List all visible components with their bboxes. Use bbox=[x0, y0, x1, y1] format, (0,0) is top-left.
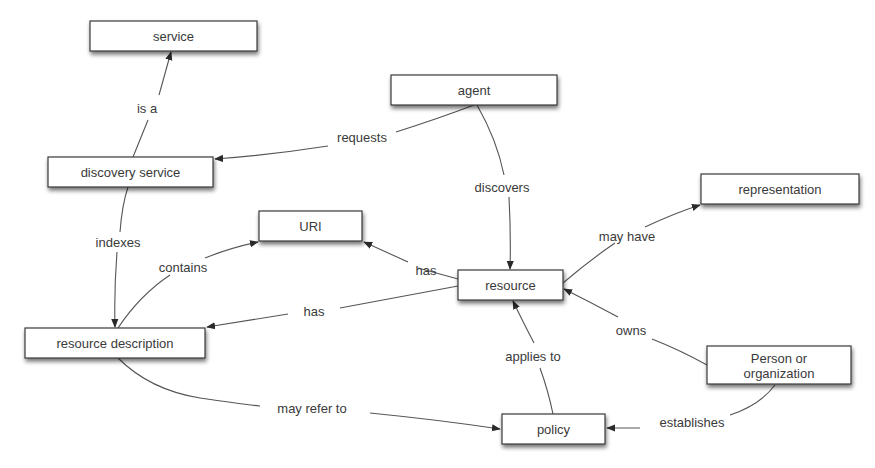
edge-line bbox=[340, 286, 458, 308]
edge-has-uri: has bbox=[364, 242, 458, 279]
edge-line-arrow bbox=[205, 242, 258, 258]
node-label-agent: agent bbox=[458, 83, 491, 98]
node-label-person-line2: organization bbox=[744, 366, 815, 381]
node-resource: resource bbox=[458, 270, 563, 300]
edge-label-is-a: is a bbox=[137, 101, 158, 116]
edge-has-description: has bbox=[207, 286, 458, 327]
edge-requests: requests bbox=[215, 105, 474, 159]
edge-contains: contains bbox=[118, 242, 258, 328]
edge-discovers: discovers bbox=[475, 105, 530, 269]
node-label-resource-description: resource description bbox=[56, 336, 173, 351]
edge-owns: owns bbox=[564, 289, 707, 365]
edge-line-arrow bbox=[645, 205, 700, 227]
concept-map-diagram: is a requests discovers indexes contains… bbox=[0, 0, 875, 468]
edge-establishes: establishes bbox=[607, 385, 775, 430]
edge-line bbox=[540, 368, 553, 414]
edge-applies-to: applies to bbox=[505, 301, 561, 414]
edge-is-a: is a bbox=[133, 52, 171, 157]
edge-line bbox=[563, 243, 615, 283]
edge-line-arrow bbox=[370, 413, 500, 429]
edge-label-establishes: establishes bbox=[659, 415, 725, 430]
edge-line-arrow bbox=[564, 289, 618, 317]
edge-label-may-have: may have bbox=[599, 229, 655, 244]
node-uri: URI bbox=[259, 211, 362, 241]
node-service: service bbox=[90, 21, 257, 51]
edge-line-arrow bbox=[513, 301, 534, 343]
node-label-uri: URI bbox=[299, 219, 321, 234]
edge-label-applies-to: applies to bbox=[505, 349, 561, 364]
node-label-service: service bbox=[153, 29, 194, 44]
edge-label-may-refer-to: may refer to bbox=[277, 401, 346, 416]
edge-label-discovers: discovers bbox=[475, 180, 530, 195]
edge-may-refer-to: may refer to bbox=[118, 358, 500, 429]
edge-may-have: may have bbox=[563, 205, 700, 283]
edge-label-has-description: has bbox=[304, 304, 325, 319]
edge-line-arrow bbox=[215, 146, 328, 159]
edge-line-arrow bbox=[364, 242, 408, 262]
node-policy: policy bbox=[502, 414, 605, 444]
node-label-discovery-service: discovery service bbox=[81, 165, 181, 180]
edge-line-arrow bbox=[207, 314, 288, 327]
edge-line bbox=[730, 385, 775, 415]
edge-line bbox=[652, 339, 707, 365]
edge-label-has-uri: has bbox=[416, 263, 437, 278]
edge-line bbox=[396, 105, 474, 132]
node-person-or-organization: Person or organization bbox=[707, 346, 851, 384]
edge-line bbox=[133, 120, 148, 157]
edge-line bbox=[118, 275, 170, 328]
node-representation: representation bbox=[701, 174, 859, 204]
node-agent: agent bbox=[391, 75, 557, 105]
node-resource-description: resource description bbox=[25, 328, 205, 358]
edge-line-arrow bbox=[115, 252, 117, 327]
node-label-policy: policy bbox=[537, 422, 571, 437]
edge-line bbox=[477, 105, 504, 175]
node-label-resource: resource bbox=[485, 278, 536, 293]
node-label-representation: representation bbox=[738, 182, 821, 197]
edge-line bbox=[120, 187, 128, 232]
edge-label-requests: requests bbox=[337, 130, 387, 145]
edge-label-owns: owns bbox=[616, 323, 647, 338]
edge-label-indexes: indexes bbox=[96, 235, 141, 250]
edge-line-arrow bbox=[509, 197, 510, 269]
node-discovery-service: discovery service bbox=[48, 157, 213, 187]
edge-line bbox=[118, 358, 260, 406]
edge-line-arrow bbox=[159, 52, 171, 95]
node-label-person-line1: Person or bbox=[751, 351, 808, 366]
edge-label-contains: contains bbox=[159, 260, 208, 275]
